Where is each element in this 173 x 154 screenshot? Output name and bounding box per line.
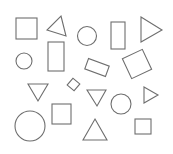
square-2-shape <box>52 104 71 124</box>
triangle-right-shape <box>141 17 162 42</box>
shapes-canvas <box>0 0 173 154</box>
circle-shape <box>78 27 97 46</box>
small-circle-shape <box>16 53 32 69</box>
triangle-tilted-shape <box>47 16 66 36</box>
small-square-shape <box>135 119 151 134</box>
circle-2-shape <box>111 94 131 114</box>
triangle-up-shape <box>83 119 107 140</box>
big-circle-shape <box>15 111 45 141</box>
tall-rectangle-2-shape <box>48 42 64 71</box>
small-diamond-shape <box>67 78 80 91</box>
tilted-square-shape <box>122 49 151 78</box>
tilted-rectangle-shape <box>85 59 109 77</box>
tall-rectangle-shape <box>111 22 125 49</box>
triangle-down-2-shape <box>87 90 106 106</box>
triangle-right-small-shape <box>144 87 158 103</box>
square-shape <box>16 18 37 39</box>
triangle-down-shape <box>28 84 48 101</box>
